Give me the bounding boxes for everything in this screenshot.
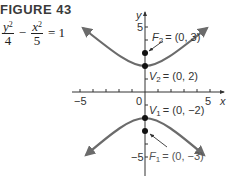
lower-branch-left	[86, 118, 145, 155]
vertex-v2-point	[142, 63, 148, 69]
x-axis-label: x	[219, 95, 226, 107]
v1-label: V1= (0, −2)	[149, 104, 204, 118]
focus-f2-point	[142, 50, 148, 56]
hyperbola-graph: −5 0 5 x 5 −5 y F2= (0,	[0, 0, 237, 177]
f1-leader-arrow	[150, 134, 167, 147]
y-axis-label: y	[135, 9, 143, 21]
x-tick-label-0: 0	[136, 95, 142, 107]
upper-branch-left	[83, 28, 145, 66]
f2-label: F2= (0, 3)	[152, 31, 200, 45]
y-tick-label-5: 5	[137, 21, 143, 33]
y-tick-label-neg5: −5	[131, 151, 144, 163]
x-tick-label-5: 5	[205, 95, 211, 107]
vertex-v1-point	[142, 115, 148, 121]
x-tick-label-neg5: −5	[74, 95, 87, 107]
v2-label: V2= (0, 2)	[149, 70, 198, 84]
f1-label: F1= (0, −3)	[149, 150, 204, 164]
focus-f1-point	[142, 128, 148, 134]
